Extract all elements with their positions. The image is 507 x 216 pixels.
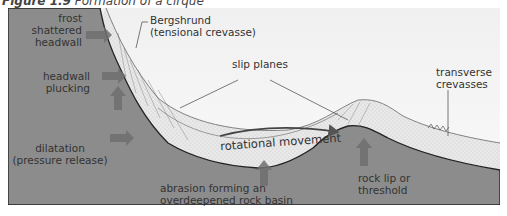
label-transverse-crevasses: transverse crevasses	[436, 66, 492, 90]
label-bergshrund: Bergshrund (tensional crevasse)	[150, 14, 256, 38]
label-rock-lip: rock lip or threshold	[358, 172, 410, 196]
figure-caption: Formation of a cirque	[75, 0, 204, 8]
label-dilatation: dilatation (pressure release)	[10, 142, 110, 166]
figure-title: Figure 1.9 Formation of a cirque	[2, 0, 204, 8]
figure-number: Figure 1.9	[2, 0, 71, 8]
cirque-diagram: frost shattered headwall Bergshrund (ten…	[8, 8, 500, 205]
label-slip-planes: slip planes	[232, 58, 288, 70]
label-frost-shattered: frost shattered headwall	[22, 12, 82, 48]
label-headwall-plucking: headwall plucking	[30, 70, 90, 94]
label-abrasion: abrasion forming an overdeepened rock ba…	[160, 182, 293, 206]
